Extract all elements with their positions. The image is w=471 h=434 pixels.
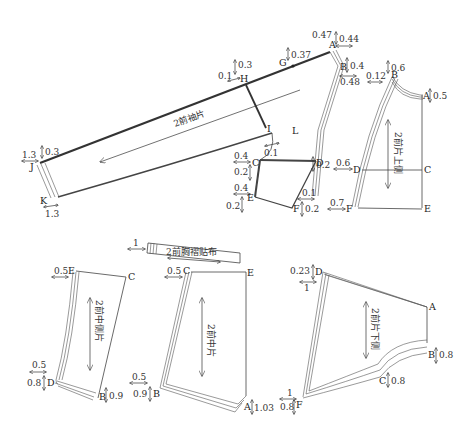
midside-point-c: C <box>128 271 135 282</box>
sleeve-top-seam <box>40 52 330 163</box>
meas-midside-e-h: 0.5 <box>54 266 69 276</box>
sleeve-piece: 2前袖片 A B G H I L J K C D E F 0.47 0.44 0… <box>22 30 365 219</box>
upper-point-f: F <box>346 203 353 214</box>
meas-sleeve-h-h: 0.1 <box>218 71 232 81</box>
meas-lower-b-v: 0.8 <box>439 350 454 360</box>
meas-upper-d-h: 0.6 <box>336 158 351 168</box>
meas-sleeve-l-h: 0.1 <box>264 148 278 158</box>
meas-sleeve-e-v: 0.2 <box>226 201 240 211</box>
line-h-i <box>246 85 266 128</box>
meas-midside-b-v: 0.9 <box>109 391 124 401</box>
sleeve-point-l: L <box>292 125 299 136</box>
meas-sleeve-a-h: 0.44 <box>339 34 359 44</box>
meas-sleeve-d-v: 0.2 <box>316 160 330 170</box>
meas-sleeve-k-h: 1.3 <box>45 209 60 219</box>
lower-point-a: A <box>428 301 436 312</box>
sleeve-point-f: F <box>293 203 300 214</box>
point-g-dot <box>291 64 294 67</box>
upper-point-d: D <box>353 164 361 175</box>
meas-upper-f-h: 0.7 <box>330 198 345 208</box>
meas-middle-a-v: 1.03 <box>254 403 274 413</box>
lower-point-c: C <box>379 375 386 386</box>
meas-midside-d-v: 0.8 <box>27 378 42 388</box>
lower-point-d: D <box>315 266 323 277</box>
meas-sleeve-a-v: 0.47 <box>312 30 332 40</box>
meas-sleeve-c-h: 0.4 <box>234 151 249 161</box>
sleeve-point-h: H <box>240 73 248 84</box>
upper-point-c: C <box>424 164 431 175</box>
meas-sleeve-f-v: 0.2 <box>305 204 319 214</box>
middle-side-piece: 2前中侧片 E C D B 0.5 0.5 0.8 0.9 <box>27 265 135 402</box>
meas-sleeve-h-v: 0.3 <box>238 60 253 70</box>
pleat-patch-piece: 2前胸褶贴布 1 <box>128 238 240 263</box>
midside-point-e: E <box>68 265 75 276</box>
sleeve-point-c: C <box>252 157 259 168</box>
lower-point-b: B <box>428 349 435 360</box>
meas-middle-b-h: 0.5 <box>132 372 147 382</box>
meas-upper-a-v: 0.5 <box>433 91 448 101</box>
meas-lower-d-v: 0.23 <box>290 266 310 276</box>
meas-lower-d-h: 1 <box>304 283 310 293</box>
middle-piece: 2前中片 C E B A 0.5 0.5 0.9 1.03 <box>130 265 274 414</box>
meas-sleeve-f-h: 0.1 <box>302 188 316 198</box>
sleeve-point-i: I <box>267 123 271 134</box>
meas-patch-h: 1 <box>133 238 139 248</box>
middle-side-label: 2前中侧片 <box>94 300 105 342</box>
lower-point-f: F <box>296 399 303 410</box>
sleeve-point-k: K <box>40 195 48 206</box>
meas-lower-f-h: 1 <box>287 388 293 398</box>
sleeve-point-j: J <box>29 161 34 172</box>
meas-sleeve-c-v: 0.2 <box>234 167 248 177</box>
lower-side-label: 2前片下侧 <box>370 308 381 350</box>
meas-sleeve-j-h: 1.3 <box>22 150 37 160</box>
upper-point-a: A <box>422 90 430 101</box>
meas-sleeve-e-h: 0.4 <box>234 183 249 193</box>
meas-sleeve-b-h: 0.48 <box>340 77 360 87</box>
sleeve-point-g: G <box>279 57 287 68</box>
meas-sleeve-j-v: 0.3 <box>45 147 60 157</box>
middle-label: 2前中片 <box>206 324 217 357</box>
lower-side-piece: 2前片下侧 D A B C F 0.23 1 0.8 0.8 1 0.8 <box>280 265 454 414</box>
sleeve-point-a: A <box>328 39 336 50</box>
midside-point-d: D <box>47 377 55 388</box>
middle-point-e: E <box>247 267 254 278</box>
meas-sleeve-g-v: 0.37 <box>291 50 311 60</box>
meas-sleeve-b-v: 0.4 <box>350 61 365 71</box>
meas-upper-b-v: 0.6 <box>391 63 406 73</box>
upper-side-label: 2前片上侧 <box>393 132 404 174</box>
sleeve-point-b: B <box>340 61 347 72</box>
meas-lower-f-v: 0.8 <box>280 402 295 412</box>
meas-upper-b-h: 0.12 <box>366 71 386 81</box>
middle-point-c: C <box>183 265 190 276</box>
middle-point-a: A <box>243 401 251 412</box>
meas-middle-c-h: 0.5 <box>167 266 182 276</box>
midside-point-b: B <box>99 391 106 402</box>
meas-middle-b-v: 0.9 <box>133 389 148 399</box>
upper-point-e: E <box>424 203 431 214</box>
pattern-diagram: 2前袖片 A B G H I L J K C D E F 0.47 0.44 0… <box>0 0 471 434</box>
pleat-patch-label: 2前胸褶贴布 <box>166 246 217 257</box>
middle-point-b: B <box>153 388 160 399</box>
meas-midside-d-h: 0.5 <box>32 360 47 370</box>
meas-lower-c-v: 0.8 <box>391 376 406 386</box>
